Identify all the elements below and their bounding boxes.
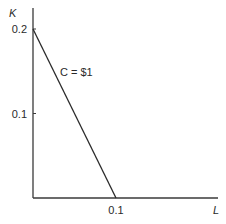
y-tick-label: 0.2: [12, 23, 27, 35]
isocost-label: C = $1: [60, 66, 93, 78]
isocost-chart: K L 0.10.2 0.1 C = $1: [0, 0, 226, 224]
y-tick-label: 0.1: [12, 108, 27, 120]
x-tick-label: 0.1: [108, 204, 123, 216]
y-axis-title: K: [9, 7, 17, 19]
isocost-line: [33, 29, 116, 198]
x-axis-title: L: [213, 204, 219, 216]
series-layer: [33, 29, 116, 198]
x-ticks: 0.1: [108, 204, 123, 216]
